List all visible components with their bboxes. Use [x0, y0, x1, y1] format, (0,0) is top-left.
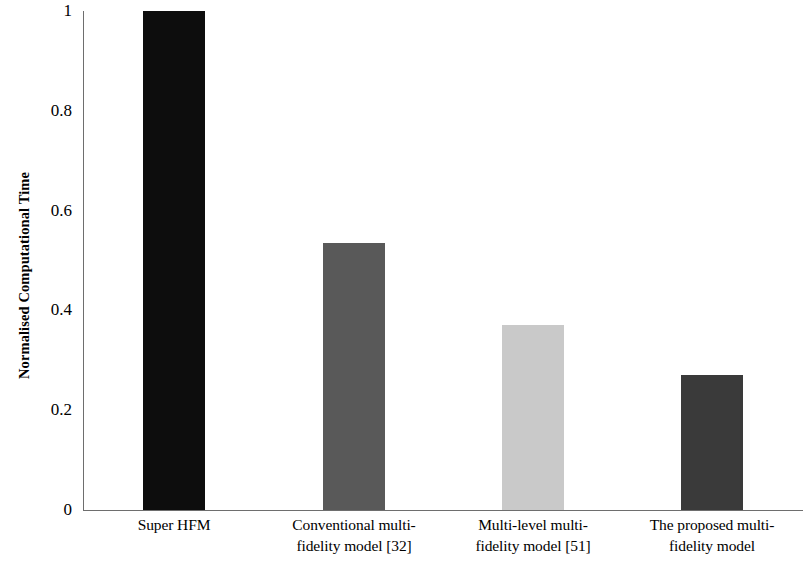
- y-axis-tick-label: 0.2: [14, 401, 72, 418]
- x-axis-category-label-line: Conventional multi-: [264, 514, 444, 535]
- y-axis-tick-label: 1: [14, 2, 72, 19]
- y-axis-tick-label: 0: [14, 501, 72, 518]
- y-axis-tick-label: 0.8: [14, 102, 72, 119]
- x-axis-category-labels: Super HFMConventional multi-fidelity mod…: [84, 514, 803, 566]
- bar-chart: Normalised Computational Time 10.80.60.4…: [0, 0, 803, 566]
- x-axis-category-label: The proposed multi-fidelity model: [622, 514, 802, 556]
- plot-area: [84, 11, 803, 510]
- x-axis-category-label-line: Super HFM: [84, 514, 264, 535]
- x-axis-category-label-line: Multi-level multi-: [443, 514, 623, 535]
- y-axis-tick-label: 0.6: [14, 202, 72, 219]
- x-axis-category-label-line: fidelity model [32]: [264, 535, 444, 556]
- bar: [323, 243, 385, 510]
- x-axis-category-label: Super HFM: [84, 514, 264, 535]
- bar: [143, 11, 205, 510]
- x-axis-category-label: Conventional multi-fidelity model [32]: [264, 514, 444, 556]
- x-axis-category-label-line: fidelity model: [622, 535, 802, 556]
- bar: [681, 375, 743, 510]
- bar: [502, 325, 564, 510]
- x-axis-line: [83, 510, 803, 511]
- x-axis-category-label-line: fidelity model [51]: [443, 535, 623, 556]
- x-axis-category-label-line: The proposed multi-: [622, 514, 802, 535]
- y-axis-tick-labels: 10.80.60.40.20: [0, 0, 72, 566]
- y-axis-tick-label: 0.4: [14, 301, 72, 318]
- x-axis-category-label: Multi-level multi-fidelity model [51]: [443, 514, 623, 556]
